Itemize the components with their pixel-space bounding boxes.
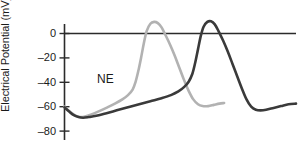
chart-figure: Electrical Potential (mV) 0 –20 –40 –60 … (0, 0, 303, 149)
y-tick-label-minus80: –80 (30, 126, 56, 137)
y-tick-label-minus40: –40 (30, 77, 56, 88)
axes-group (60, 24, 297, 140)
y-axis-title: Electrical Potential (mV) (0, 0, 20, 129)
series-annotation-ne: NE (97, 73, 114, 85)
y-tick-label-0: 0 (30, 28, 56, 39)
series-group (65, 21, 297, 118)
y-tick-label-minus60: –60 (30, 101, 56, 112)
y-tick-label-minus20: –20 (30, 52, 56, 63)
